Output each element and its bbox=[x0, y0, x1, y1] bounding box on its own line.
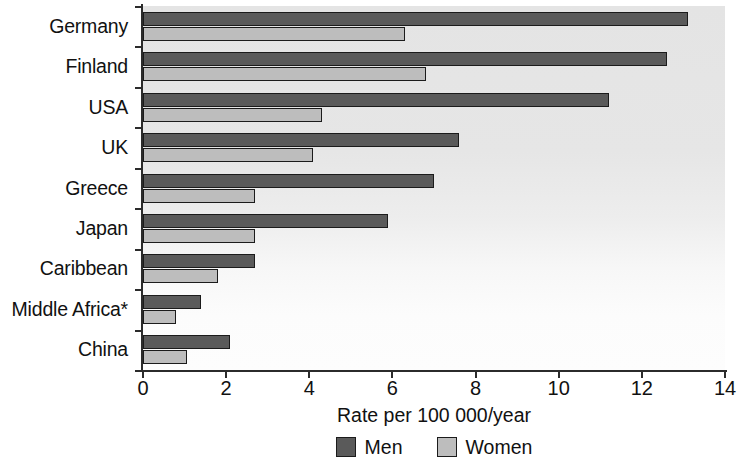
chart-legend: MenWomen bbox=[143, 437, 725, 457]
x-tick-label-0: 0 bbox=[137, 376, 148, 400]
bar-chart-figure: GermanyFinlandUSAUKGreeceJapanCaribbeanM… bbox=[0, 0, 742, 470]
plot-area bbox=[143, 6, 725, 370]
category-label-caribbean: Caribbean bbox=[0, 258, 128, 278]
bar-men-japan bbox=[143, 214, 388, 228]
legend-label-women: Women bbox=[466, 437, 533, 457]
x-tick-label-2: 2 bbox=[221, 376, 232, 400]
bar-men-caribbean bbox=[143, 254, 255, 268]
bar-men-middle-africa bbox=[143, 295, 201, 309]
legend-item-men: Men bbox=[336, 437, 403, 457]
category-label-china: China bbox=[0, 339, 128, 359]
bar-women-china bbox=[143, 350, 187, 364]
bar-women-finland bbox=[143, 67, 426, 81]
bar-women-japan bbox=[143, 229, 255, 243]
x-tick-label-4: 4 bbox=[304, 376, 315, 400]
legend-swatch-men bbox=[336, 437, 356, 457]
y-axis-tick bbox=[135, 208, 143, 210]
y-axis-tick bbox=[135, 87, 143, 89]
bar-women-greece bbox=[143, 189, 255, 203]
legend-item-women: Women bbox=[437, 437, 533, 457]
bar-men-finland bbox=[143, 52, 667, 66]
x-tick-label-12: 12 bbox=[631, 376, 653, 400]
bar-men-usa bbox=[143, 93, 609, 107]
legend-swatch-women bbox=[437, 437, 457, 457]
y-axis-tick bbox=[135, 46, 143, 48]
category-label-middle-africa: Middle Africa* bbox=[0, 299, 128, 319]
bar-women-usa bbox=[143, 108, 322, 122]
x-axis-title: Rate per 100 000/year bbox=[143, 404, 725, 427]
x-axis-tick-labels: 02468101214 bbox=[0, 376, 742, 404]
category-label-japan: Japan bbox=[0, 218, 128, 238]
category-label-usa: USA bbox=[0, 97, 128, 117]
category-label-germany: Germany bbox=[0, 16, 128, 36]
bar-women-caribbean bbox=[143, 269, 218, 283]
y-axis-tick bbox=[135, 289, 143, 291]
bar-men-uk bbox=[143, 133, 459, 147]
bar-women-germany bbox=[143, 27, 405, 41]
legend-label-men: Men bbox=[365, 437, 403, 457]
category-label-greece: Greece bbox=[0, 178, 128, 198]
bar-women-uk bbox=[143, 148, 313, 162]
bar-men-greece bbox=[143, 174, 434, 188]
y-axis-tick bbox=[135, 330, 143, 332]
category-label-uk: UK bbox=[0, 137, 128, 157]
x-axis-line bbox=[141, 370, 727, 372]
x-tick-label-14: 14 bbox=[714, 376, 736, 400]
x-tick-label-10: 10 bbox=[548, 376, 570, 400]
x-tick-label-6: 6 bbox=[387, 376, 398, 400]
y-axis-tick bbox=[135, 168, 143, 170]
bar-men-china bbox=[143, 335, 230, 349]
bar-women-middle-africa bbox=[143, 310, 176, 324]
category-axis-labels: GermanyFinlandUSAUKGreeceJapanCaribbeanM… bbox=[0, 6, 136, 370]
y-axis-tick bbox=[135, 249, 143, 251]
bar-men-germany bbox=[143, 12, 688, 26]
category-label-finland: Finland bbox=[0, 56, 128, 76]
y-axis-tick bbox=[135, 127, 143, 129]
y-axis-tick bbox=[135, 6, 143, 8]
x-tick-label-8: 8 bbox=[470, 376, 481, 400]
